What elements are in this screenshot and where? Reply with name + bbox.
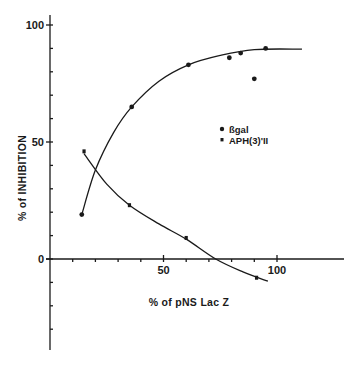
- fit-curve-aph: [84, 154, 268, 282]
- inhibition-chart: 05010050100 % of pNS Lac Z % of INHIBITI…: [0, 0, 360, 366]
- fit-curves: [82, 49, 302, 281]
- x-tick-label: 100: [268, 264, 286, 276]
- y-tick-label: 100: [26, 19, 44, 31]
- data-point-bgal: [129, 105, 134, 110]
- x-axis-label: % of pNS Lac Z: [149, 296, 230, 308]
- data-point-aph: [128, 203, 131, 207]
- data-point-aph: [255, 276, 258, 280]
- legend-label-aph: APH(3)'II: [229, 135, 268, 146]
- y-axis-label: % of INHIBITION: [16, 135, 28, 221]
- data-points: [79, 46, 268, 280]
- data-point-aph: [185, 236, 188, 240]
- data-point-bgal: [238, 51, 243, 56]
- data-point-bgal: [186, 62, 191, 67]
- fit-curve-bgal: [82, 49, 302, 215]
- legend-marker-square-icon: [221, 138, 224, 141]
- tick-labels: 05010050100: [26, 19, 287, 276]
- data-point-bgal: [263, 46, 268, 51]
- y-tick-label: 0: [38, 253, 44, 265]
- data-point-aph: [82, 149, 85, 153]
- x-tick-label: 50: [157, 264, 169, 276]
- data-point-bgal: [227, 55, 232, 60]
- data-point-bgal: [252, 76, 257, 81]
- y-tick-label: 50: [32, 136, 44, 148]
- legend-label-bgal: ßgal: [229, 124, 249, 135]
- data-point-bgal: [79, 212, 84, 217]
- legend-marker-circle-icon: [220, 127, 224, 131]
- legend: ßgal APH(3)'II: [220, 124, 268, 146]
